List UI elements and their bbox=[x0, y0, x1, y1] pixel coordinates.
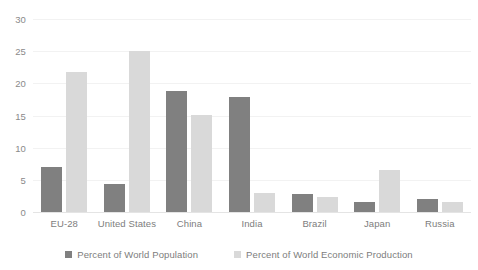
bar[interactable] bbox=[292, 194, 313, 212]
bar[interactable] bbox=[254, 193, 275, 212]
bar[interactable] bbox=[191, 115, 212, 212]
bar[interactable] bbox=[129, 51, 150, 212]
x-tick-label: Japan bbox=[346, 214, 409, 236]
bar[interactable] bbox=[166, 91, 187, 212]
bar[interactable] bbox=[229, 97, 250, 212]
legend-label: Percent of World Economic Production bbox=[246, 249, 413, 260]
legend-label: Percent of World Population bbox=[77, 249, 198, 260]
x-tick-label: China bbox=[158, 214, 221, 236]
legend-swatch-icon bbox=[234, 251, 241, 258]
x-tick-label: EU-28 bbox=[33, 214, 96, 236]
y-axis: 051015202530 bbox=[0, 0, 33, 212]
bar-chart: 051015202530 EU-28United StatesChinaIndi… bbox=[0, 0, 478, 270]
y-tick-label: 5 bbox=[21, 174, 26, 185]
bar-pair bbox=[96, 19, 159, 212]
bar-pair bbox=[346, 19, 409, 212]
bar[interactable] bbox=[317, 197, 338, 212]
bar-group bbox=[158, 19, 221, 212]
bar-pair bbox=[158, 19, 221, 212]
bar[interactable] bbox=[379, 170, 400, 212]
bar-pair bbox=[408, 19, 471, 212]
bar[interactable] bbox=[41, 167, 62, 212]
x-tick-label: India bbox=[221, 214, 284, 236]
bar-group bbox=[283, 19, 346, 212]
x-tick-label: Brazil bbox=[283, 214, 346, 236]
legend-item[interactable]: Percent of World Population bbox=[65, 249, 198, 260]
y-tick-label: 0 bbox=[21, 207, 26, 218]
bar-group bbox=[33, 19, 96, 212]
y-tick-label: 25 bbox=[15, 46, 26, 57]
bar-pair bbox=[283, 19, 346, 212]
x-tick-label: Russia bbox=[408, 214, 471, 236]
bar[interactable] bbox=[442, 202, 463, 212]
y-tick-label: 10 bbox=[15, 142, 26, 153]
bar-pair bbox=[33, 19, 96, 212]
bar-group bbox=[96, 19, 159, 212]
chart-legend: Percent of World PopulationPercent of Wo… bbox=[0, 245, 478, 263]
bar-group bbox=[408, 19, 471, 212]
x-tick-label: United States bbox=[96, 214, 159, 236]
legend-item[interactable]: Percent of World Economic Production bbox=[234, 249, 413, 260]
bar-group bbox=[221, 19, 284, 212]
y-tick-label: 30 bbox=[15, 14, 26, 25]
y-tick-label: 20 bbox=[15, 78, 26, 89]
bar-group bbox=[346, 19, 409, 212]
legend-swatch-icon bbox=[65, 251, 72, 258]
bar[interactable] bbox=[66, 72, 87, 212]
bar-groups-layer bbox=[33, 19, 471, 212]
axis-baseline bbox=[33, 212, 471, 213]
bar[interactable] bbox=[354, 202, 375, 212]
y-tick-label: 15 bbox=[15, 110, 26, 121]
bar-pair bbox=[221, 19, 284, 212]
bar[interactable] bbox=[417, 199, 438, 212]
x-axis: EU-28United StatesChinaIndiaBrazilJapanR… bbox=[33, 214, 471, 236]
bar[interactable] bbox=[104, 184, 125, 212]
